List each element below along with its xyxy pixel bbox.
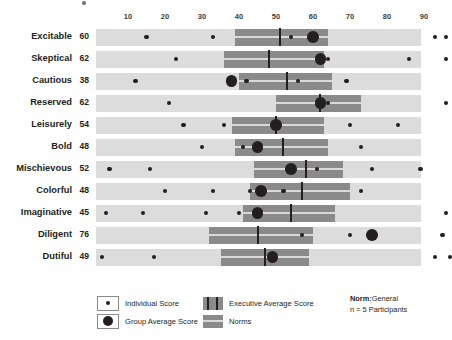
legend-label-executive-average-score: Executive Average Score: [229, 299, 314, 308]
group-average-marker: [315, 97, 327, 109]
row-plot: [96, 73, 421, 90]
chart-row: Cautious38: [0, 71, 428, 93]
norm-note-participants: n = 5 Participants: [350, 305, 407, 316]
chart-row: Mischievous52: [0, 159, 428, 181]
row-plot: [96, 227, 421, 244]
individual-score-marker: [104, 211, 108, 215]
axis-tick-80: 80: [374, 12, 400, 21]
individual-score-marker: [300, 233, 304, 237]
row-track: [96, 249, 421, 266]
legend-item-executive-average-score: Executive Average Score: [203, 294, 314, 312]
norm-note: Norm:General n = 5 Participants: [350, 294, 407, 315]
row-score-mischievous: 52: [75, 163, 89, 173]
axis-tick-20: 20: [152, 12, 178, 21]
chart-row: Diligent76: [0, 225, 428, 247]
individual-score-marker: [433, 255, 437, 259]
individual-score-marker: [370, 167, 374, 171]
legend-column-scores: Individual Score Group Average Score: [97, 294, 198, 330]
individual-score-marker: [448, 255, 452, 259]
row-track: [96, 95, 421, 112]
individual-score-marker: [444, 101, 448, 105]
group-average-marker: [270, 119, 282, 131]
norm-note-line-1: Norm:General: [350, 294, 407, 305]
row-label-bold: Bold: [0, 141, 72, 151]
row-plot: [96, 249, 421, 266]
individual-score-marker: [174, 57, 178, 61]
row-track: [96, 227, 421, 244]
chart-rows: Excitable60Skeptical62Cautious38Reserved…: [0, 27, 428, 269]
group-average-marker: [226, 75, 238, 87]
norms-icon: [203, 315, 223, 328]
individual-score-marker: [348, 233, 352, 237]
chart-row: Reserved62: [0, 93, 428, 115]
axis-tick-90: 90: [411, 12, 437, 21]
axis-tick-50: 50: [263, 12, 289, 21]
individual-score-marker: [241, 145, 245, 149]
row-track: [96, 117, 421, 134]
individual-score-marker: [237, 211, 241, 215]
row-label-colorful: Colorful: [0, 185, 72, 195]
row-score-imaginative: 45: [75, 207, 89, 217]
row-label-dutiful: Dutiful: [0, 251, 72, 261]
executive-average-marker: [257, 226, 259, 244]
chart-row: Bold48: [0, 137, 428, 159]
individual-score-marker: [163, 189, 167, 193]
chart-row: Excitable60: [0, 27, 428, 49]
row-plot: [96, 161, 421, 178]
row-label-mischievous: Mischievous: [0, 163, 72, 173]
individual-score-marker: [396, 123, 400, 127]
group-average-marker: [285, 163, 297, 175]
row-track: [96, 183, 421, 200]
legend-item-norms: Norms: [203, 312, 314, 330]
legend-label-individual-score: Individual Score: [125, 299, 179, 308]
legend-item-group-average-score: Group Average Score: [97, 312, 198, 330]
individual-score-marker: [211, 35, 215, 39]
norm-note-value: General: [372, 294, 398, 303]
norms-band: [224, 51, 324, 68]
individual-score-marker: [344, 79, 348, 83]
individual-score-marker: [418, 167, 422, 171]
axis-tick-10: 10: [115, 12, 141, 21]
row-label-reserved: Reserved: [0, 97, 72, 107]
executive-average-marker: [290, 204, 292, 222]
executive-average-marker: [268, 50, 270, 68]
individual-score-marker: [359, 145, 363, 149]
legend-item-individual-score: Individual Score: [97, 294, 198, 312]
row-score-leisurely: 54: [75, 119, 89, 129]
row-plot: [96, 51, 421, 68]
row-plot: [96, 139, 421, 156]
executive-average-marker: [301, 182, 303, 200]
individual-score-marker: [444, 211, 448, 215]
individual-score-marker: [222, 123, 226, 127]
row-score-diligent: 76: [75, 229, 89, 239]
row-plot: [96, 29, 421, 46]
group-average-score-icon: [97, 314, 119, 329]
row-label-excitable: Excitable: [0, 31, 72, 41]
individual-score-marker: [407, 57, 411, 61]
individual-score-icon: [97, 296, 119, 311]
row-score-reserved: 62: [75, 97, 89, 107]
group-average-marker: [252, 141, 264, 153]
group-average-marker: [307, 31, 319, 43]
individual-score-marker: [144, 35, 148, 39]
norms-band: [209, 227, 313, 244]
group-average-marker: [366, 229, 378, 241]
executive-average-score-icon: [203, 297, 223, 310]
individual-score-marker: [433, 35, 437, 39]
row-track: [96, 51, 421, 68]
individual-score-marker: [167, 101, 171, 105]
row-label-skeptical: Skeptical: [0, 53, 72, 63]
chart-row: Dutiful49: [0, 247, 428, 269]
individual-score-marker: [289, 35, 293, 39]
individual-score-marker: [315, 167, 319, 171]
x-axis-ticks: 102030405060708090: [0, 12, 428, 26]
individual-score-marker: [141, 211, 145, 215]
legend-label-group-average-score: Group Average Score: [125, 317, 198, 326]
stray-dot-artifact: [82, 1, 86, 5]
individual-score-marker: [359, 189, 363, 193]
axis-tick-30: 30: [189, 12, 215, 21]
individual-score-marker: [204, 211, 208, 215]
individual-score-marker: [440, 233, 444, 237]
individual-score-marker: [348, 123, 352, 127]
